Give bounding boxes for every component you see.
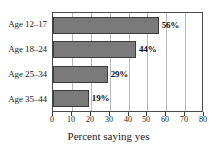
x-axis-tick-label: 10	[67, 116, 75, 124]
x-axis-tick-labels: 01020304050607080	[52, 116, 203, 128]
bar-value-label: 29%	[111, 70, 128, 79]
x-axis-title: Percent saying yes	[0, 131, 217, 142]
bar-series: 56% 44% 29% 19%	[53, 13, 202, 111]
bar	[53, 17, 159, 34]
bar-value-label: 19%	[92, 94, 109, 103]
bar	[53, 41, 136, 58]
plot-area: 56% 44% 29% 19%	[52, 12, 203, 112]
category-axis-labels: Age 12–17 Age 18–24 Age 25–34 Age 35–44	[0, 12, 50, 112]
x-axis-tick-label: 70	[180, 116, 188, 124]
bar	[53, 90, 89, 107]
bar	[53, 66, 108, 83]
bar-chart: Age 12–17 Age 18–24 Age 25–34 Age 35–44 …	[0, 0, 217, 151]
bar-row: 56%	[53, 13, 202, 38]
x-axis-tick-label: 50	[142, 116, 150, 124]
bar-row: 29%	[53, 62, 202, 87]
bar-value-label: 44%	[139, 45, 156, 54]
x-axis-tick-label: 80	[199, 116, 207, 124]
category-label: Age 25–34	[0, 62, 50, 87]
x-axis-tick-label: 20	[86, 116, 94, 124]
x-axis-tick-label: 0	[50, 116, 54, 124]
category-label: Age 12–17	[0, 12, 50, 37]
bar-row: 19%	[53, 87, 202, 112]
x-axis-tick-label: 60	[161, 116, 169, 124]
x-axis-tick-label: 30	[105, 116, 113, 124]
bar-value-label: 56%	[162, 21, 179, 30]
category-label: Age 18–24	[0, 37, 50, 62]
category-label: Age 35–44	[0, 87, 50, 112]
x-axis-tick-label: 40	[124, 116, 132, 124]
bar-row: 44%	[53, 38, 202, 63]
